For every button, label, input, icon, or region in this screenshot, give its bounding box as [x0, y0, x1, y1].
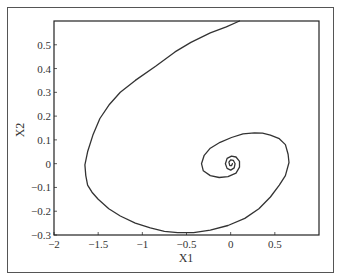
figure: −2−1.5−1−0.500.5 −0.3−0.2−0.100.10.20.30…	[0, 0, 341, 280]
y-tick-label: −0.1	[31, 181, 51, 193]
y-tick-label: 0.3	[37, 86, 51, 98]
y-tick-label: 0.4	[37, 63, 51, 75]
x-tick-label: −1	[136, 238, 148, 250]
y-axis-label: X2	[13, 123, 27, 138]
axes-box	[54, 21, 319, 235]
trajectory-line	[85, 21, 289, 233]
x-tick-label: −0.5	[177, 238, 197, 250]
y-tick-label: −0.2	[31, 205, 51, 217]
y-tick-label: 0	[46, 158, 52, 170]
x-tick-label: 0	[228, 238, 234, 250]
x-axis-label: X1	[179, 251, 194, 265]
y-tick-label: −0.3	[31, 229, 51, 241]
y-tick-label: 0.5	[37, 39, 51, 51]
x-tick-label: 0.5	[268, 238, 282, 250]
y-tick-label: 0.2	[37, 110, 51, 122]
x-tick-label: −1.5	[88, 238, 108, 250]
y-tick-label: 0.1	[37, 134, 51, 146]
y-axis-ticks: −0.3−0.2−0.100.10.20.30.40.5	[31, 39, 57, 241]
